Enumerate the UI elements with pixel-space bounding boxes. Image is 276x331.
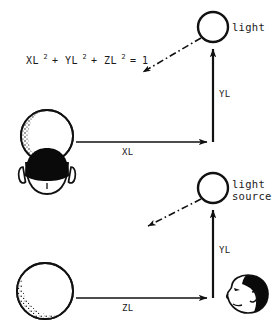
equation-term-zl: ZL — [104, 55, 117, 66]
light-ray-arrow-lower — [148, 199, 201, 226]
profile-mouth — [233, 304, 242, 306]
equation-exponent-yl: 2 — [83, 53, 87, 61]
head-profile-view — [227, 275, 268, 313]
light-source-label-line1: light — [232, 178, 265, 190]
yl-axis-label-lower: YL — [219, 245, 231, 255]
equation-exponent-zl: 2 — [122, 53, 126, 61]
equation-plus-1: + — [52, 55, 59, 66]
equation-exponent-xl: 2 — [44, 53, 48, 61]
equation-equals-sign: = — [130, 55, 137, 66]
equation-group: XL 2 + YL 2 + ZL 2 = 1 — [26, 53, 149, 67]
head-left-ear — [19, 167, 26, 183]
light-ray-arrow-upper — [143, 38, 201, 72]
light-source-label-line2: source — [232, 190, 272, 202]
zl-axis-label: ZL — [122, 303, 134, 313]
light-circle-lower — [198, 173, 228, 203]
profile-eye — [234, 288, 240, 291]
yl-axis-label-upper: YL — [219, 89, 231, 99]
equation-plus-2: + — [91, 55, 98, 66]
light-label-upper: light — [232, 21, 265, 33]
equation-term-yl: YL — [65, 55, 78, 66]
vector-diagram: XL 2 + YL 2 + ZL 2 = 1 light YL XL — [0, 0, 276, 331]
equation-result-value: 1 — [142, 55, 149, 66]
head-right-ear — [69, 167, 76, 183]
light-circle-upper — [198, 12, 228, 42]
equation-term-xl: XL — [26, 55, 39, 66]
lower-panel: light source YL ZL — [14, 173, 272, 320]
shaded-sphere-lower — [14, 263, 73, 320]
upper-panel: light YL XL — [19, 12, 265, 194]
xl-axis-label: XL — [122, 147, 134, 157]
figure-canvas: XL 2 + YL 2 + ZL 2 = 1 light YL XL — [0, 0, 276, 331]
head-rear-view — [19, 148, 76, 194]
